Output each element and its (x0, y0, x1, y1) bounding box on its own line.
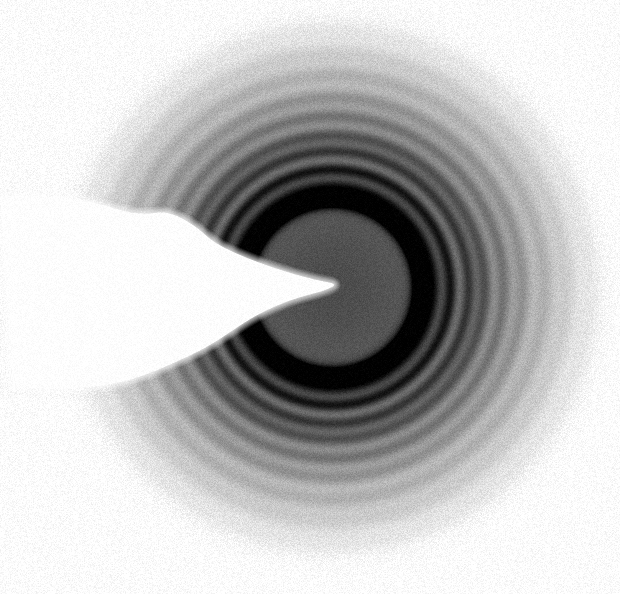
electron-diffraction-image (0, 0, 620, 594)
diffraction-plate (0, 0, 620, 594)
